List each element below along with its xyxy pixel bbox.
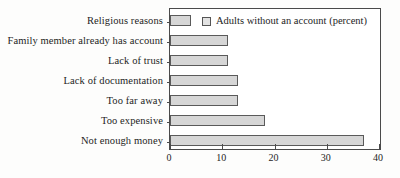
x-tick-label-10: 10 <box>206 152 236 163</box>
bar-too-expensive[interactable] <box>170 115 265 126</box>
x-tick-0 <box>170 144 171 149</box>
x-tick-30 <box>327 144 328 149</box>
bar-chart-figure: Religious reasons Family member already … <box>0 0 400 178</box>
category-label-not-enough-money: Not enough money <box>81 134 163 148</box>
category-label-too-expensive: Too expensive <box>101 114 163 128</box>
x-tick-20 <box>275 144 276 149</box>
plot-area: Adults without an account (percent) <box>169 8 381 150</box>
bar-lack-of-trust[interactable] <box>170 55 228 66</box>
x-tick-40 <box>379 144 380 149</box>
category-axis: Religious reasons Family member already … <box>0 8 166 150</box>
category-label-family-member-has-account: Family member already has account <box>8 34 164 48</box>
category-label-lack-of-documentation: Lack of documentation <box>64 74 163 88</box>
category-label-too-far-away: Too far away <box>107 94 163 108</box>
category-label-religious-reasons: Religious reasons <box>87 14 163 28</box>
legend: Adults without an account (percent) <box>202 15 367 27</box>
bar-too-far-away[interactable] <box>170 95 238 106</box>
x-tick-10 <box>222 144 223 149</box>
legend-swatch-icon <box>202 17 211 26</box>
x-tick-label-40: 40 <box>363 152 393 163</box>
legend-label: Adults without an account (percent) <box>216 15 367 27</box>
bar-family-member-has-account[interactable] <box>170 35 228 46</box>
x-tick-label-20: 20 <box>259 152 289 163</box>
bar-religious-reasons[interactable] <box>170 15 191 26</box>
category-label-lack-of-trust: Lack of trust <box>108 54 163 68</box>
x-tick-label-30: 30 <box>311 152 341 163</box>
x-tick-label-0: 0 <box>154 152 184 163</box>
bar-not-enough-money[interactable] <box>170 135 364 146</box>
bar-lack-of-documentation[interactable] <box>170 75 238 86</box>
